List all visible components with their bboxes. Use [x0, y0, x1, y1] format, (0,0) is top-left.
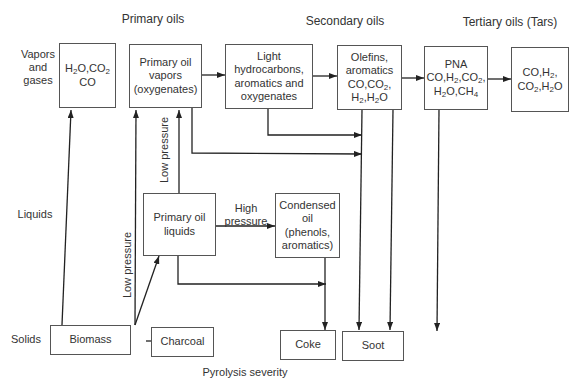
box-line: aromatics) — [279, 239, 335, 253]
box-primary-oil-liquids: Primary oil liquids — [143, 193, 216, 256]
edge-label-high-pressure-line: pressure — [220, 215, 272, 228]
box-line: (oxygenates) — [134, 83, 198, 97]
box-line: oxygenates — [234, 90, 304, 104]
box-line: Condensed — [279, 199, 335, 213]
box-primary-oil-vapors: Primary oil vapors (oxygenates) — [129, 44, 202, 108]
box-line: H2,H2O — [346, 91, 394, 105]
box-line: (phenols, — [279, 226, 335, 240]
box-line: vapors — [134, 69, 198, 83]
box-line: CO2,H2O — [518, 80, 563, 94]
box-condensed-oil: Condensed oil (phenols, aromatics) — [275, 193, 340, 258]
edge-label-low-pressure-biomass: Low pressure — [121, 232, 133, 298]
box-line: liquids — [154, 225, 206, 239]
box-coke: Coke — [280, 330, 336, 360]
box-biomass: Biomass — [50, 325, 131, 355]
box-line: aromatics — [346, 64, 394, 78]
box-line: hydrocarbons, — [234, 63, 304, 77]
box-primary-gases: H2O,CO2 CO — [59, 43, 116, 108]
box-line: CO,H2, — [518, 66, 563, 80]
box-line: H2O,CH4 — [426, 85, 485, 99]
box-light-hydrocarbons: Light hydrocarbons, aromatics and oxygen… — [225, 44, 313, 109]
box-pna: PNA CO,H2,CO2, H2O,CH4 — [424, 46, 488, 110]
box-line: Light — [234, 50, 304, 64]
box-final-gases: CO,H2, CO2,H2O — [511, 47, 569, 112]
box-line: Primary oil — [134, 56, 198, 70]
box-charcoal: Charcoal — [151, 327, 214, 357]
box-line: CO,H2,CO2, — [426, 71, 485, 85]
box-line: Primary oil — [154, 211, 206, 225]
box-line: CO,CO2, — [346, 78, 394, 92]
box-line: aromatics and — [234, 77, 304, 91]
edge-label-high-pressure-line: High — [220, 202, 272, 215]
box-line: PNA — [426, 58, 485, 72]
edge-label-high-pressure: High pressure — [220, 202, 272, 228]
box-line: Olefins, — [346, 51, 394, 65]
box-primary-gases-line: CO — [65, 76, 110, 90]
box-line: oil — [279, 212, 335, 226]
box-olefins-aromatics: Olefins, aromatics CO,CO2, H2,H2O — [337, 45, 402, 110]
box-soot: Soot — [342, 331, 404, 361]
edge-label-low-pressure-liquids: Low pressure — [158, 117, 170, 183]
box-primary-gases-line: H2O,CO2 — [65, 62, 110, 76]
